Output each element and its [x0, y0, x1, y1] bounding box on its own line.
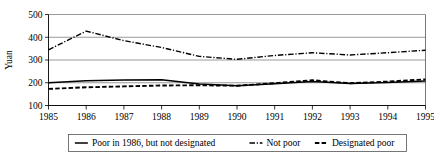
y-tick-label: 300 [28, 55, 43, 65]
y-axis-label: Yuan [4, 50, 14, 70]
x-axis-tickmarks [45, 15, 426, 110]
legend-label-0: Poor in 1986, but not designated [92, 138, 216, 148]
y-tick-label: 500 [28, 10, 43, 20]
legend-label-1: Not poor [266, 138, 301, 148]
x-tick-label: 1990 [228, 112, 247, 122]
x-tick-label: 1995 [416, 112, 434, 122]
x-tick-label: 1991 [265, 112, 284, 122]
chart-canvas: 100200300400500 198519861987198819891990… [0, 0, 434, 159]
x-axis-tick-labels: 1985198619871988198919901991199219931994… [39, 112, 434, 122]
x-tick-label: 1986 [77, 112, 96, 122]
x-tick-label: 1992 [303, 112, 322, 122]
y-tick-label: 100 [28, 101, 43, 111]
x-tick-label: 1993 [341, 112, 360, 122]
x-tick-label: 1988 [152, 112, 171, 122]
y-axis-title: Yuan [4, 50, 14, 70]
x-tick-label: 1987 [114, 112, 133, 122]
line-chart-figure: 100200300400500 198519861987198819891990… [0, 0, 434, 159]
y-tick-label: 200 [28, 78, 43, 88]
y-tick-label: 400 [28, 33, 43, 43]
x-tick-label: 1994 [378, 112, 397, 122]
legend-label-2: Designated poor [332, 138, 395, 148]
x-tick-label: 1985 [39, 112, 58, 122]
chart-legend: Poor in 1986, but not designatedNot poor… [69, 135, 407, 152]
x-tick-label: 1989 [190, 112, 209, 122]
y-axis-tick-labels: 100200300400500 [28, 10, 43, 111]
series-line-1 [49, 31, 426, 59]
